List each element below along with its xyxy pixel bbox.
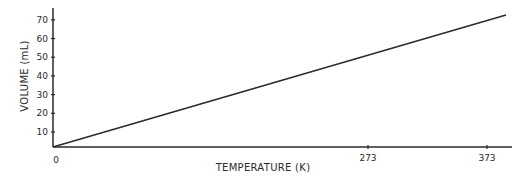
y-tick-label-10: 10 (37, 127, 49, 137)
y-tick-label-30: 30 (37, 90, 49, 100)
y-tick-label-20: 20 (37, 108, 49, 118)
x-tick-label-0: 0 (53, 155, 59, 165)
x-tick-label-273: 273 (359, 153, 376, 163)
y-axis-title: VOLUME (mL) (19, 40, 30, 111)
x-tick-label-373: 373 (478, 153, 495, 163)
y-tick-label-50: 50 (37, 52, 49, 62)
data-line (53, 15, 506, 147)
y-tick-label-40: 40 (37, 71, 49, 81)
y-tick-label-60: 60 (37, 34, 49, 44)
x-axis-title: TEMPERATURE (K) (215, 162, 311, 173)
line-chart: 10 20 30 40 50 60 70 0 273 373 TEMPERATU… (0, 0, 524, 184)
y-tick-label-70: 70 (37, 15, 49, 25)
